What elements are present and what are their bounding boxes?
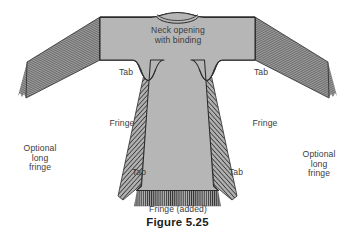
garment-diagram <box>0 0 355 234</box>
hem-added-fringe <box>134 190 221 206</box>
figure-caption: Figure 5.25 <box>0 216 355 228</box>
figure-container: Neck opening with binding Tab Tab Fringe… <box>0 0 355 234</box>
left-sleeve-fringe <box>18 17 100 98</box>
garment-outline-final <box>100 13 255 191</box>
right-sleeve-fringe <box>255 17 337 98</box>
